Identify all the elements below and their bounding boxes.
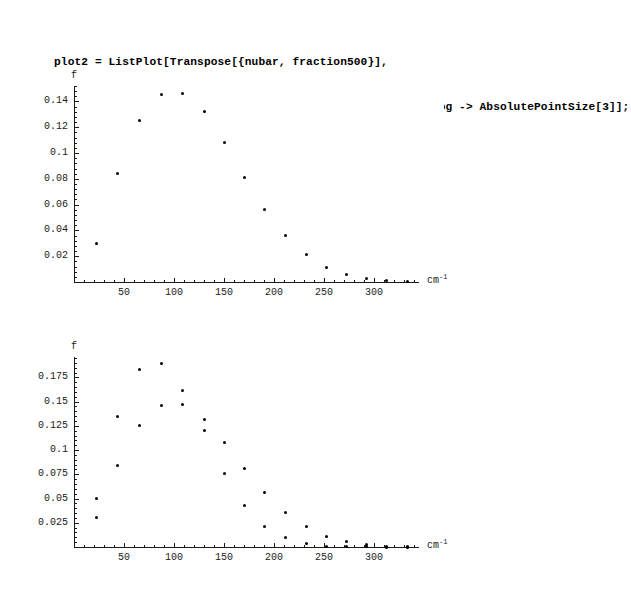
y-axis-minor-tick	[75, 282, 77, 283]
x-axis-tick-label: 250	[304, 287, 344, 298]
y-axis-minor-tick	[75, 465, 77, 466]
y-axis-minor-tick	[75, 174, 77, 175]
data-point	[95, 242, 98, 245]
x-axis-tick-label: 150	[204, 287, 244, 298]
x-axis-minor-tick	[154, 280, 155, 282]
x-axis-minor-tick	[144, 545, 145, 547]
x-axis-minor-tick	[134, 280, 135, 282]
x-axis-minor-tick	[184, 280, 185, 282]
data-point	[243, 176, 246, 179]
y-axis-tick	[75, 230, 79, 231]
y-axis-minor-tick	[75, 542, 77, 543]
y-axis-minor-tick	[75, 494, 77, 495]
y-axis-minor-tick	[75, 96, 77, 97]
data-point	[345, 273, 348, 276]
y-axis-minor-tick	[75, 272, 77, 273]
x-axis-minor-tick	[214, 280, 215, 282]
y-axis-minor-tick	[75, 469, 77, 470]
x-axis-tick	[374, 543, 375, 547]
y-axis-tick-label: 0.175	[22, 371, 68, 382]
plot-output-show[interactable]: 501001502002503000.0250.050.0750.10.1250…	[24, 344, 444, 579]
y-axis-minor-tick	[75, 431, 77, 432]
data-point	[263, 525, 266, 528]
y-axis-minor-tick	[75, 436, 77, 437]
y-axis-minor-tick	[75, 194, 77, 195]
data-point	[181, 92, 184, 95]
x-axis-tick-label: 50	[104, 552, 144, 563]
x-axis-minor-tick	[414, 280, 415, 282]
y-axis-minor-tick	[75, 503, 77, 504]
y-axis-minor-tick	[75, 184, 77, 185]
x-axis-tick-label: 100	[154, 552, 194, 563]
x-axis-minor-tick	[154, 545, 155, 547]
x-axis-minor-tick	[104, 545, 105, 547]
x-axis-minor-tick	[164, 545, 165, 547]
y-axis-minor-tick	[75, 132, 77, 133]
x-axis-minor-tick	[254, 280, 255, 282]
code-line-1: plot2 = ListPlot[Transpose[{nubar, fract…	[54, 55, 629, 70]
data-point	[284, 511, 287, 514]
y-axis-tick-label: 0.08	[22, 173, 68, 184]
x-axis-tick-label: 50	[104, 287, 144, 298]
y-axis-minor-tick	[75, 479, 77, 480]
y-axis-minor-tick	[75, 440, 77, 441]
y-axis-minor-tick	[75, 484, 77, 485]
data-point	[345, 545, 348, 548]
data-point	[385, 546, 388, 549]
x-axis-minor-tick	[364, 280, 365, 282]
plot-canvas: 501001502002503000.020.040.060.080.10.12…	[24, 76, 444, 306]
x-axis-minor-tick	[264, 545, 265, 547]
y-axis-minor-tick	[75, 518, 77, 519]
y-axis-minor-tick	[75, 169, 77, 170]
data-point	[203, 429, 206, 432]
x-axis-tick	[124, 543, 125, 547]
x-axis-minor-tick	[294, 545, 295, 547]
y-axis-minor-tick	[75, 373, 77, 374]
data-point	[95, 497, 98, 500]
x-axis-minor-tick	[134, 545, 135, 547]
y-axis-minor-tick	[75, 406, 77, 407]
x-axis-minor-tick	[264, 280, 265, 282]
y-axis-minor-tick	[75, 547, 77, 548]
data-point	[385, 279, 388, 282]
data-point	[325, 535, 328, 538]
y-axis-minor-tick	[75, 445, 77, 446]
x-axis-minor-tick	[184, 545, 185, 547]
data-point	[160, 93, 163, 96]
data-point	[223, 441, 226, 444]
y-axis-label: f	[71, 70, 77, 81]
x-axis-minor-tick	[354, 545, 355, 547]
data-point	[365, 277, 368, 280]
x-axis-minor-tick	[404, 545, 405, 547]
y-axis-minor-tick	[75, 455, 77, 456]
x-axis-minor-tick	[144, 280, 145, 282]
data-point	[138, 119, 141, 122]
data-point	[160, 404, 163, 407]
x-axis-minor-tick	[294, 280, 295, 282]
x-axis-minor-tick	[114, 280, 115, 282]
y-axis-minor-tick	[75, 148, 77, 149]
x-axis-minor-tick	[104, 280, 105, 282]
data-point	[223, 141, 226, 144]
y-axis-minor-tick	[75, 122, 77, 123]
y-axis-minor-tick	[75, 528, 77, 529]
x-axis-minor-tick	[344, 280, 345, 282]
x-axis-minor-tick	[204, 280, 205, 282]
data-point	[284, 234, 287, 237]
y-axis-minor-tick	[75, 460, 77, 461]
plot-output-plot2[interactable]: 501001502002503000.020.040.060.080.10.12…	[24, 76, 444, 306]
y-axis-tick	[75, 377, 79, 378]
data-point	[325, 545, 328, 548]
plot-canvas: 501001502002503000.0250.050.0750.10.1250…	[24, 344, 444, 579]
x-axis-minor-tick	[214, 545, 215, 547]
x-axis-tick-label: 200	[254, 552, 294, 563]
y-axis-minor-tick	[75, 143, 77, 144]
x-axis-tick	[174, 278, 175, 282]
x-axis-minor-tick	[314, 280, 315, 282]
y-axis-minor-tick	[75, 251, 77, 252]
x-axis-label-exponent: -1	[439, 273, 447, 281]
y-axis-tick	[75, 499, 79, 500]
y-axis-minor-tick	[75, 117, 77, 118]
x-axis-tick	[324, 278, 325, 282]
y-axis-tick	[75, 256, 79, 257]
